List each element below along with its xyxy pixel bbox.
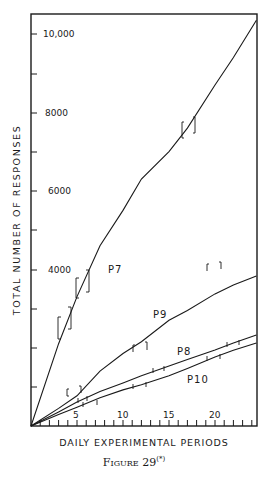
- series-line-p7: [31, 20, 256, 426]
- figure-caption-text: Figure 29: [103, 456, 156, 469]
- x-axis-tick-labels: 5 10 15 20: [73, 410, 221, 420]
- figure-caption: Figure 29(*): [0, 455, 268, 469]
- x-tick-label: 15: [163, 410, 174, 420]
- series-label-p7: P7: [108, 264, 122, 275]
- x-axis-title: DAILY EXPERIMENTAL PERIODS: [59, 437, 229, 448]
- series-line-p9: [31, 276, 256, 426]
- y-tick-label: 4000: [48, 265, 71, 275]
- x-tick-label: 10: [117, 410, 129, 420]
- y-axis-title: TOTAL NUMBER OF RESPONSES: [11, 125, 22, 317]
- x-axis-ticks: [40, 420, 252, 426]
- series-lines: [31, 20, 256, 426]
- y-axis-tick-labels: 10,000 8000 6000 4000: [43, 29, 75, 275]
- series-label-p8: P8: [177, 346, 191, 357]
- y-axis-ticks: [31, 34, 37, 387]
- series-labels: P7 P9 P8 P10: [108, 264, 209, 385]
- x-tick-label: 20: [209, 410, 221, 420]
- series-label-p9: P9: [153, 309, 167, 320]
- cumulative-response-chart: 10,000 8000 6000 4000 5 10 15 20: [0, 0, 268, 477]
- y-tick-label: 8000: [45, 108, 68, 118]
- plot-frame: [31, 14, 257, 426]
- series-line-p10: [31, 343, 256, 426]
- figure-caption-superscript: (*): [156, 455, 165, 463]
- x-tick-label: 5: [73, 410, 79, 420]
- y-tick-label: 6000: [48, 186, 71, 196]
- bracket-marks: [58, 117, 239, 407]
- series-label-p10: P10: [187, 374, 209, 385]
- y-tick-label: 10,000: [43, 29, 75, 39]
